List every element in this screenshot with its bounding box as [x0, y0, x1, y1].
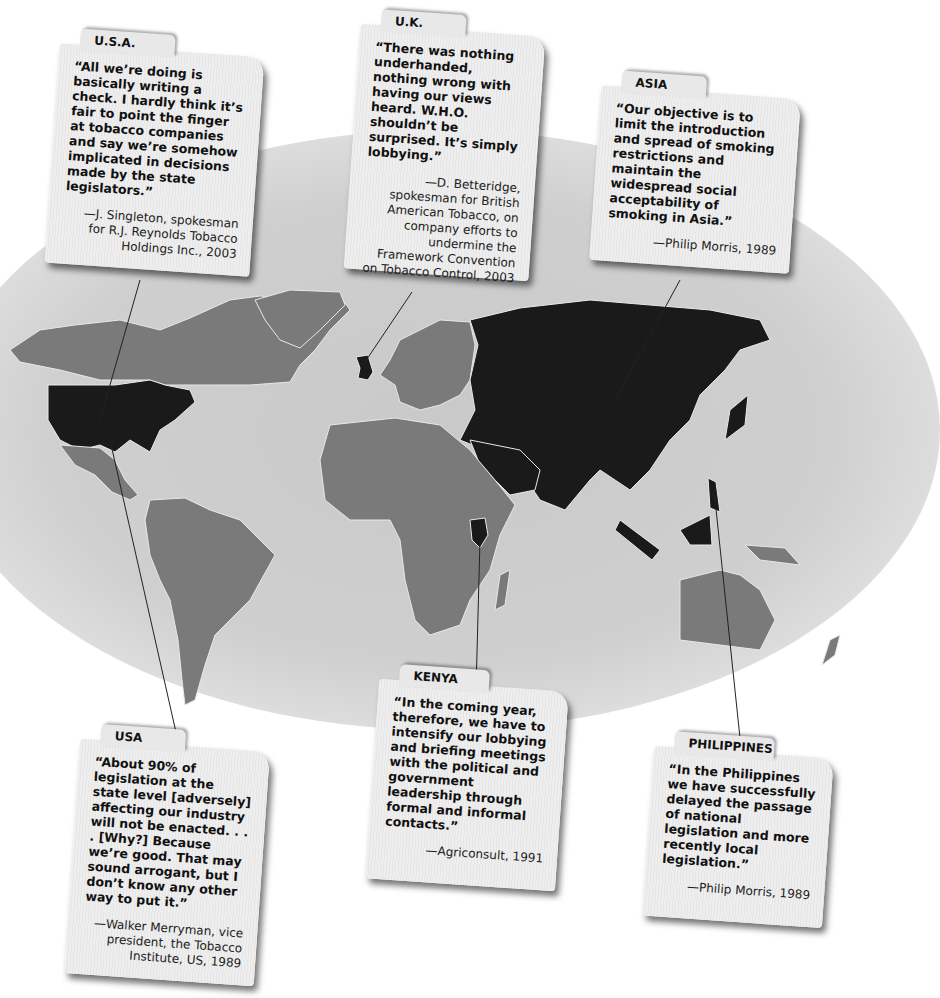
europe	[380, 320, 475, 410]
card-attribution: —J. Singleton, spokesman for R.J. Reynol…	[62, 205, 240, 262]
philippines	[708, 478, 720, 512]
uk-highlighted	[356, 355, 373, 380]
card-label: U.K.	[395, 14, 424, 30]
south-america	[145, 498, 275, 705]
card-quote: “In the Philippines we have successfully…	[662, 761, 819, 876]
australia	[680, 570, 775, 650]
card-quote: “About 90% of legislation at the state l…	[85, 754, 255, 915]
quote-card-usa-1989: USA “About 90% of legislation at the sta…	[64, 739, 270, 987]
card-label: ASIA	[635, 76, 668, 92]
card-attribution: —Philip Morris, 1989	[660, 878, 811, 903]
quote-card-usa-2003: U.S.A. “All we’re doing is basically wri…	[45, 43, 265, 277]
card-label: USA	[114, 729, 143, 745]
borneo	[680, 515, 712, 545]
usa-highlighted	[48, 380, 195, 452]
card-attribution: —Agriconsult, 1991	[383, 840, 544, 866]
quote-card-asia: ASIA “Our objective is to limit the intr…	[589, 85, 801, 274]
quote-card-uk: U.K. “There was nothing underhanded, not…	[344, 24, 546, 281]
madagascar	[495, 570, 510, 610]
card-quote: “There was nothing underhanded, nothing …	[367, 39, 530, 170]
quote-card-philippines: PHILIPPINES “In the Philippines we have …	[642, 746, 833, 928]
card-quote: “Our objective is to limit the introduct…	[608, 100, 786, 232]
card-attribution: —Walker Merryman, vice president, the To…	[81, 915, 244, 971]
card-quote: “In the coming year, therefore, we have …	[385, 694, 554, 840]
new-zealand	[822, 635, 840, 665]
card-label: U.S.A.	[94, 34, 136, 51]
quote-card-kenya: KENYA “In the coming year, therefore, we…	[365, 679, 568, 892]
card-attribution: —D. Betteridge, spokesman for British Am…	[359, 171, 521, 287]
mexico-central-america	[60, 445, 138, 500]
sumatra	[615, 520, 660, 560]
card-label: PHILIPPINES	[688, 736, 773, 756]
papua	[745, 545, 800, 565]
japan	[725, 395, 748, 440]
card-label: KENYA	[413, 669, 458, 686]
card-attribution: —Philip Morris, 1989	[606, 232, 777, 259]
card-quote: “All we’re doing is basically writing a …	[65, 58, 249, 205]
